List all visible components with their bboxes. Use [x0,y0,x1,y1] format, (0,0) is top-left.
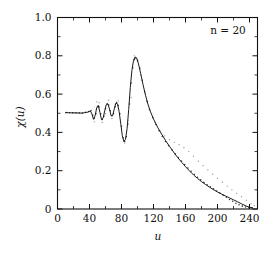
data-point [118,100,119,101]
y-tick-label: 1.0 [35,11,52,23]
x-tick-label: 0 [54,212,61,224]
data-point [229,199,231,201]
data-point [124,143,125,144]
data-point [250,203,251,204]
data-point [236,193,237,194]
data-point [98,102,99,103]
data-point [241,196,242,197]
y-tick-label: 0.4 [35,126,52,138]
data-point [102,122,103,123]
annotation-n-value: n = 20 [210,24,246,36]
data-point [108,100,109,101]
data-point [232,201,234,203]
data-point [183,147,184,148]
chart-figure: 04080120160200240 00.20.40.60.81.0 u χ(u… [0,0,276,256]
data-point [245,206,247,208]
data-point [178,144,179,145]
data-point [202,165,203,166]
data-point [242,205,244,207]
data-point [217,178,218,179]
data-point [226,185,227,186]
y-tick-label: 0.6 [35,88,52,100]
x-tick-label: 40 [83,212,96,224]
data-point [105,113,106,114]
chart-canvas: 04080120160200240 00.20.40.60.81.0 u χ(u… [0,0,276,256]
data-point [207,169,208,170]
y-tick-label: 0 [45,203,52,215]
x-tick-label: 160 [175,212,195,224]
data-point [193,156,194,157]
x-tick-label: 200 [207,212,227,224]
y-tick-label: 0.8 [35,49,52,61]
data-point [231,189,232,190]
data-point [238,204,240,206]
data-point [169,139,170,140]
data-point [130,97,131,98]
x-tick-label: 80 [115,212,128,224]
y-axis-label: χ(u) [14,106,26,128]
data-point [198,161,199,162]
data-point [246,200,247,201]
data-point [212,174,213,175]
data-point [188,151,189,152]
data-point [222,182,223,183]
data-point [134,55,135,56]
data-point [96,101,97,102]
data-point [164,135,165,136]
data-point [235,202,237,204]
data-point [254,205,255,206]
data-point [94,121,95,122]
x-tick-label: 120 [143,212,163,224]
y-tick-label: 0.2 [35,164,52,176]
data-point [111,118,112,119]
x-tick-label: 240 [239,212,259,224]
data-point [174,142,175,143]
x-axis-label: u [155,230,162,242]
